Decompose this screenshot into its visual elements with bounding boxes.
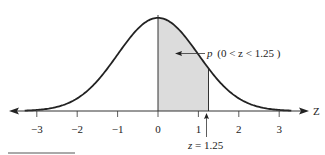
tick-label: −3 (31, 123, 43, 135)
tick-label: −1 (112, 123, 124, 135)
z-marker-label: z = 1.25 (187, 139, 224, 151)
tick-label: 2 (236, 123, 242, 135)
probability-prefix: p (206, 47, 213, 59)
tick-label: 0 (155, 123, 161, 135)
normal-distribution-chart: Z −3−2−10123 p (0 < z < 1.25 ) z = 1.25 (0, 0, 325, 155)
tick-label: 3 (276, 123, 282, 135)
tick-label: −2 (71, 123, 83, 135)
tick-label: 1 (196, 123, 202, 135)
axis-label-z: Z (313, 105, 320, 117)
x-ticks: −3−2−10123 (31, 111, 283, 135)
probability-expression: (0 < z < 1.25 ) (217, 47, 280, 60)
shaded-area (158, 18, 209, 111)
z-marker-value: = 1.25 (192, 139, 223, 151)
probability-annotation: p (0 < z < 1.25 ) (206, 47, 281, 60)
